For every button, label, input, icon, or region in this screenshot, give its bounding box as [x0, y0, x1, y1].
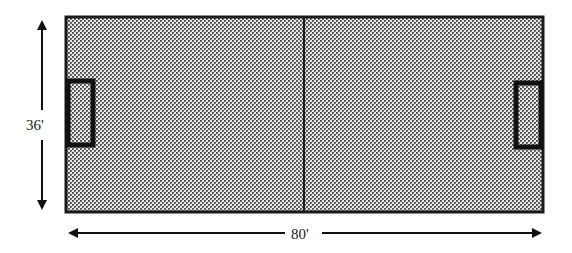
height-label: 36'	[24, 117, 46, 133]
width-label: 80'	[289, 226, 311, 242]
field-diagram	[0, 0, 572, 253]
